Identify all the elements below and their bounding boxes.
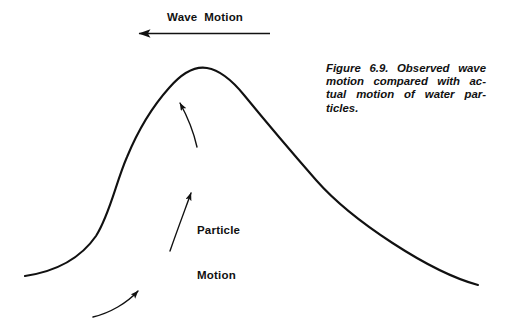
particle-arrow-lower-icon — [93, 291, 138, 317]
particle-motion-label-line2: Motion — [197, 268, 240, 283]
figure-caption-line-3: tual motion of water par- — [326, 88, 486, 101]
particle-arrow-upper-icon — [180, 103, 197, 147]
wave-motion-label: Wave Motion — [167, 11, 243, 23]
particle-motion-label: Particle Motion — [197, 193, 240, 313]
figure-drawing — [0, 0, 511, 335]
particle-motion-label-line1: Particle — [197, 223, 240, 238]
figure-caption-line-4: ticles. — [326, 102, 486, 115]
figure-container: Wave Motion Particle Motion Figure 6.9. … — [0, 0, 511, 335]
figure-caption-line-2: motion compared with ac- — [326, 75, 486, 88]
particle-arrow-middle-icon — [170, 193, 191, 251]
figure-caption-line-1: Figure 6.9. Observed wave — [326, 62, 486, 75]
figure-caption: Figure 6.9. Observed wave motion compare… — [326, 62, 486, 115]
